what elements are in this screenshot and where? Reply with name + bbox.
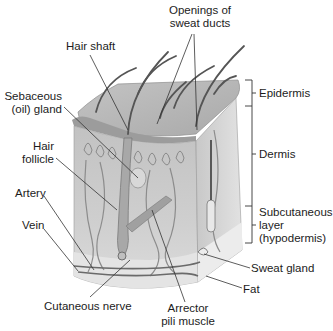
dermis-front-face (74, 126, 198, 288)
label-arrector-pili-muscle: Arrector pili muscle (158, 302, 218, 328)
label-hair-follicle: Hair follicle (10, 140, 54, 166)
label-subcutaneous-layer: Subcutaneous layer (hypodermis) (259, 206, 333, 245)
label-hair-shaft: Hair shaft (66, 40, 115, 53)
label-epidermis: Epidermis (259, 87, 310, 100)
layer-bracket (245, 80, 256, 243)
label-sebaceous-gland: Sebaceous (oil) gland (0, 90, 62, 116)
label-dermis: Dermis (259, 148, 295, 161)
label-openings-of-sweat-ducts: Openings of sweat ducts (160, 4, 240, 30)
label-fat: Fat (243, 283, 260, 296)
label-vein: Vein (22, 219, 44, 232)
label-sweat-gland: Sweat gland (251, 262, 314, 275)
label-artery: Artery (15, 187, 46, 200)
label-cutaneous-nerve: Cutaneous nerve (44, 300, 132, 313)
